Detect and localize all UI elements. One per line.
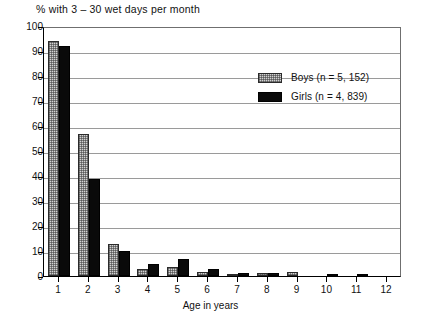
- x-tick-label-5: 5: [165, 285, 189, 295]
- legend-swatch-boys: [258, 73, 282, 83]
- x-tick-label-8: 8: [255, 285, 279, 295]
- x-tick-mark-12: [386, 277, 387, 282]
- legend-item-boys: Boys (n = 5, 152): [258, 68, 369, 87]
- x-tick-mark-8: [267, 277, 268, 282]
- x-tick-mark-2: [88, 277, 89, 282]
- x-tick-mark-9: [297, 277, 298, 282]
- legend-swatch-girls: [258, 92, 282, 102]
- x-tick-label-10: 10: [314, 285, 338, 295]
- x-tick-mark-11: [356, 277, 357, 282]
- bar-girls-age-7: [238, 273, 249, 276]
- bar-girls-age-2: [89, 179, 100, 277]
- y-tick-mark-0: [38, 277, 43, 278]
- bar-girls-age-10: [327, 274, 338, 277]
- bar-girls-age-11: [357, 274, 368, 277]
- bar-girls-age-6: [208, 269, 219, 277]
- x-tick-mark-10: [326, 277, 327, 282]
- legend-label-boys: Boys (n = 5, 152): [291, 72, 369, 83]
- bar-girls-age-1: [59, 46, 70, 276]
- y-axis: 0102030405060708090100: [0, 0, 43, 318]
- bar-girls-age-5: [178, 259, 189, 277]
- bar-boys-age-5: [167, 267, 178, 276]
- chart-legend: Boys (n = 5, 152) Girls (n = 4, 839): [258, 68, 369, 106]
- gridline-60: [44, 128, 400, 129]
- x-tick-mark-6: [207, 277, 208, 282]
- bar-boys-age-4: [137, 269, 148, 277]
- bar-boys-age-2: [78, 134, 89, 277]
- bar-boys-age-3: [108, 244, 119, 277]
- bar-boys-age-8: [257, 273, 268, 276]
- x-tick-label-11: 11: [344, 285, 368, 295]
- bar-chart: % with 3 – 30 wet days per month 0102030…: [0, 0, 421, 318]
- gridline-50: [44, 153, 400, 154]
- gridline-90: [44, 53, 400, 54]
- x-tick-mark-5: [177, 277, 178, 282]
- x-tick-label-3: 3: [106, 285, 130, 295]
- bar-girls-age-8: [268, 273, 279, 276]
- bar-boys-age-1: [48, 41, 59, 276]
- bar-girls-age-3: [119, 251, 130, 276]
- x-tick-label-2: 2: [76, 285, 100, 295]
- plot-area: Boys (n = 5, 152) Girls (n = 4, 839): [43, 27, 401, 277]
- x-axis-title: Age in years: [0, 300, 421, 311]
- chart-title: % with 3 – 30 wet days per month: [36, 3, 200, 15]
- x-tick-label-9: 9: [285, 285, 309, 295]
- bar-boys-age-9: [287, 272, 298, 276]
- legend-item-girls: Girls (n = 4, 839): [258, 87, 369, 106]
- x-tick-label-7: 7: [225, 285, 249, 295]
- bar-girls-age-4: [148, 264, 159, 277]
- x-tick-label-12: 12: [374, 285, 398, 295]
- x-tick-mark-4: [147, 277, 148, 282]
- legend-label-girls: Girls (n = 4, 839): [291, 91, 368, 102]
- x-tick-mark-3: [118, 277, 119, 282]
- x-tick-label-1: 1: [46, 285, 70, 295]
- x-tick-mark-7: [237, 277, 238, 282]
- bar-boys-age-6: [197, 272, 208, 276]
- x-tick-label-6: 6: [195, 285, 219, 295]
- x-tick-label-4: 4: [135, 285, 159, 295]
- x-tick-mark-1: [58, 277, 59, 282]
- bar-boys-age-7: [227, 274, 238, 277]
